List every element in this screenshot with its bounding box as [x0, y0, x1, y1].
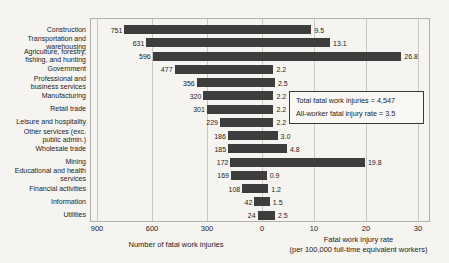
rate-value-label: 0.9: [270, 171, 300, 180]
injuries-value-label: 229: [178, 118, 218, 127]
x-axis-title-left: Number of fatal work injuries: [90, 240, 262, 250]
injuries-value-label: 596: [111, 52, 151, 61]
category-label: Other services (exc.public admin.): [0, 128, 86, 144]
rate-value-label: 3.0: [281, 131, 311, 140]
injuries-bar: [228, 144, 262, 153]
rate-bar: [262, 65, 273, 74]
rate-bar: [262, 158, 365, 167]
injuries-bar: [230, 158, 262, 167]
injuries-value-label: 631: [104, 38, 144, 47]
gridline: [152, 19, 153, 221]
rate-bar: [262, 131, 278, 140]
x-axis-title-right: Fatal work injury rate (per 100,000 full…: [268, 235, 449, 254]
injuries-bar: [207, 105, 262, 114]
rate-value-label: 13.1: [333, 38, 363, 47]
category-label: Utilities: [0, 211, 86, 219]
rate-bar: [262, 197, 270, 206]
category-label: Construction: [0, 26, 86, 34]
category-label: Government: [0, 65, 86, 73]
annotation-all-worker-rate: All-worker fatal injury rate = 3.5: [296, 108, 417, 121]
injuries-value-label: 169: [189, 171, 229, 180]
injuries-bar: [197, 78, 262, 87]
category-label: Professional andbusiness services: [0, 75, 86, 91]
rate-value-label: 2.5: [278, 78, 308, 87]
x-axis-title-right-line1: Fatal work injury rate: [268, 235, 449, 245]
rate-bar: [262, 105, 273, 114]
rate-bar: [262, 91, 273, 100]
rate-bar: [262, 144, 287, 153]
rate-bar: [262, 78, 275, 87]
rate-value-label: 2.5: [278, 211, 308, 220]
category-label: Mining: [0, 158, 86, 166]
injuries-bar: [153, 52, 262, 61]
x-tick-label: 20: [351, 224, 381, 233]
injuries-value-label: 185: [186, 144, 226, 153]
injuries-bar: [175, 65, 262, 74]
injuries-value-label: 186: [186, 131, 226, 140]
injuries-bar: [220, 118, 262, 127]
injuries-bar: [254, 197, 262, 206]
rate-bar: [262, 211, 275, 220]
injuries-value-label: 477: [133, 65, 173, 74]
rate-value-label: 1.2: [271, 184, 301, 193]
x-axis-title-right-line2: (per 100,000 full-time equivalent worker…: [268, 245, 449, 255]
gridline: [97, 19, 98, 221]
x-tick-label: 30: [403, 224, 433, 233]
rate-value-label: 9.5: [314, 25, 344, 34]
injuries-value-label: 172: [188, 158, 228, 167]
category-label: Leisure and hospitality: [0, 118, 86, 126]
injuries-value-label: 42: [212, 197, 252, 206]
category-label: Agriculture, forestry,fishing, and hunti…: [0, 48, 86, 64]
x-tick-label: 900: [82, 224, 112, 233]
category-label: Information: [0, 198, 86, 206]
rate-bar: [262, 38, 330, 47]
category-label: Educational and healthservices: [0, 167, 86, 183]
injuries-bar: [124, 25, 262, 34]
x-tick-label: 300: [192, 224, 222, 233]
category-label: Wholesale trade: [0, 145, 86, 153]
injuries-value-label: 751: [82, 25, 122, 34]
injuries-value-label: 301: [165, 105, 205, 114]
category-label: Retail trade: [0, 105, 86, 113]
annotation-total-injuries: Total fatal work injuries = 4,547: [296, 95, 417, 108]
injuries-bar: [231, 171, 262, 180]
injuries-bar: [228, 131, 262, 140]
x-tick-label: 0: [247, 224, 277, 233]
rate-bar: [262, 52, 401, 61]
x-tick-label: 10: [299, 224, 329, 233]
rate-value-label: 26.8: [404, 52, 434, 61]
injuries-bar: [242, 184, 262, 193]
rate-bar: [262, 184, 268, 193]
injuries-bar: [146, 38, 262, 47]
category-label: Financial activities: [0, 185, 86, 193]
rate-value-label: 1.5: [273, 197, 303, 206]
rate-bar: [262, 118, 273, 127]
x-tick-label: 600: [137, 224, 167, 233]
annotation-box: Total fatal work injuries = 4,547 All-wo…: [289, 91, 424, 124]
rate-bar: [262, 171, 267, 180]
fatal-work-injuries-chart: 9006003000102030Construction7519.5Transp…: [0, 0, 449, 263]
injuries-bar: [203, 91, 262, 100]
injuries-value-label: 24: [216, 211, 256, 220]
rate-value-label: 19.8: [368, 158, 398, 167]
rate-value-label: 4.8: [290, 144, 320, 153]
injuries-value-label: 320: [161, 91, 201, 100]
injuries-value-label: 356: [155, 78, 195, 87]
category-label: Manufacturing: [0, 92, 86, 100]
injuries-value-label: 108: [200, 184, 240, 193]
rate-value-label: 2.2: [276, 65, 306, 74]
rate-bar: [262, 25, 311, 34]
